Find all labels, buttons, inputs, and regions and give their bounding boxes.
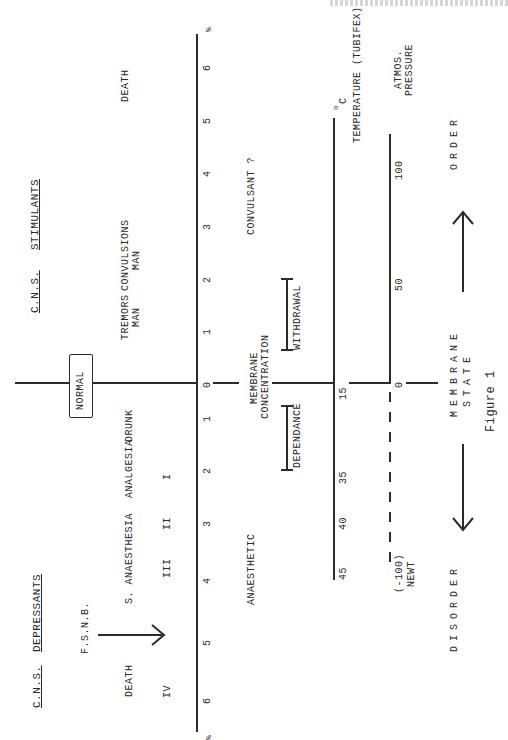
temp-tick-45: 45 (338, 567, 349, 580)
tick-stim-4: 4 (202, 170, 213, 177)
baseline-right (406, 382, 438, 384)
tick-dep-4: 4 (202, 577, 213, 584)
dependance-cap-bottom (281, 469, 293, 471)
membrane-concentration-2: CONCENTRATION (260, 334, 271, 419)
analgesia-label: ANALGESIA (124, 439, 135, 498)
withdrawal-bracket (286, 278, 288, 351)
tick-stim-5: 5 (202, 117, 213, 124)
baseline-left (15, 382, 197, 384)
pressure-tick-100: 100 (394, 160, 405, 180)
temperature-axis (333, 118, 335, 580)
convulsions-label: CONVULSIONS (120, 219, 131, 291)
convulsant-label: CONVULSANT ? (246, 157, 257, 235)
fsnb-label: F.S.N.B. (80, 602, 91, 654)
axis-unit-bottom: % (203, 735, 214, 740)
stage-2: II (162, 517, 173, 530)
pressure-label-2: PRESSURE (404, 44, 415, 96)
tick-dep-1: 1 (202, 415, 213, 422)
withdrawal-cap-top (281, 278, 293, 280)
disorder-arrow-icon (448, 440, 478, 536)
temperature-unit-c: C (338, 97, 349, 104)
temp-tick-40: 40 (338, 517, 349, 530)
membrane-state-2: STATE (462, 352, 473, 407)
normal-label: NORMAL (75, 371, 86, 410)
stage-1: I (162, 473, 173, 480)
temperature-unit-o: o (330, 105, 341, 110)
pressure-tick-0: 0 (394, 381, 405, 388)
pressure-axis-dash (389, 512, 391, 522)
pressure-neg-label: NEWT (406, 561, 417, 587)
membrane-concentration-1: MEMBRANE (249, 352, 260, 404)
pressure-label-1: ATMOS. (393, 50, 404, 89)
s-anaesthesia-label: S. ANAESTHESIA (124, 513, 135, 604)
disorder-label: DISORDER (449, 564, 460, 652)
pressure-neg-tick: (-100) (394, 554, 405, 593)
pressure-axis-dash (389, 432, 391, 442)
temp-tick-15: 15 (338, 387, 349, 400)
stimulants-heading: STIMULANTS (30, 179, 41, 250)
depressant-progression-arrow-icon (96, 620, 176, 650)
stimulants-prefix: C.N.S. (30, 270, 41, 313)
pressure-axis-dash (389, 412, 391, 422)
membrane-state-1: MEMBRANE (449, 329, 460, 417)
stage-3: III (162, 558, 173, 578)
drunk-label: DRUNK (124, 409, 135, 442)
pressure-axis (389, 134, 391, 384)
pressure-axis-dash (389, 492, 391, 502)
pressure-axis-dash (389, 452, 391, 462)
tick-stim-2: 2 (202, 276, 213, 283)
tick-stim-0: 0 (202, 381, 213, 388)
pressure-axis-dash (389, 532, 391, 542)
stage-4: IV (162, 685, 173, 698)
temp-tick-35: 35 (338, 471, 349, 484)
tick-dep-5: 5 (202, 639, 213, 646)
temperature-label: TEMPERATURE (TUBIFEX) (352, 6, 363, 143)
page-header-faint (330, 0, 508, 6)
pressure-axis-dash (389, 472, 391, 482)
withdrawal-label: WITHDRAWAL (292, 285, 303, 350)
tick-dep-3: 3 (202, 520, 213, 527)
depressants-prefix: C.N.S. (32, 665, 43, 708)
tick-stim-3: 3 (202, 223, 213, 230)
baseline-temp-pressure (349, 382, 390, 384)
tick-dep-6: 6 (202, 697, 213, 704)
pressure-tick-50: 50 (394, 278, 405, 291)
tremors-label: TREMORS (120, 294, 131, 340)
pressure-axis-dash (389, 552, 391, 562)
depressants-heading: DEPRESSANTS (32, 574, 43, 652)
anaesthetic-label: ANAESTHETIC (246, 533, 257, 605)
dependance-label: DEPENDANCE (292, 403, 303, 468)
order-label: ORDER (449, 115, 460, 170)
dep-death: DEATH (124, 664, 135, 697)
figure-caption: Figure 1 (486, 370, 497, 432)
convulsions-sub: MAN (131, 250, 142, 270)
axis-unit-top: % (203, 27, 214, 32)
baseline-membrane (213, 382, 239, 384)
tick-dep-2: 2 (202, 467, 213, 474)
order-arrow-icon (448, 208, 478, 298)
dependance-bracket (286, 405, 288, 471)
pressure-axis-dash (389, 392, 391, 402)
baseline-mid (272, 382, 334, 384)
stim-death: DEATH (120, 69, 131, 102)
tick-stim-1: 1 (202, 328, 213, 335)
tick-stim-6: 6 (202, 64, 213, 71)
tremors-sub: MAN (131, 307, 142, 327)
